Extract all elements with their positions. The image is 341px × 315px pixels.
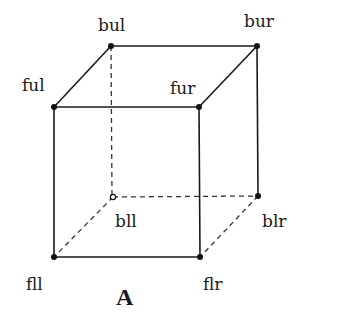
vertex-bur: [254, 43, 260, 49]
edge-fur-flr: [199, 107, 200, 257]
label-bur: bur: [244, 11, 275, 31]
label-fur: fur: [170, 78, 196, 98]
figure-caption: A: [116, 284, 134, 310]
cube-svg: bul bur ful fur bll blr fll flr A: [0, 0, 341, 315]
label-bul: bul: [98, 15, 125, 35]
edge-bll-blr: [113, 196, 258, 197]
vertex-flr: [197, 254, 203, 260]
vertex-fll: [51, 254, 57, 260]
label-bll: bll: [115, 211, 137, 231]
edge-ful-bul: [54, 46, 111, 107]
edge-bur-blr: [257, 46, 258, 196]
edge-bur-fur: [199, 46, 257, 107]
edge-bll-fll: [54, 197, 113, 257]
label-fll: fll: [26, 274, 43, 294]
label-blr: blr: [262, 211, 287, 231]
edge-bul-bll: [111, 46, 112, 197]
vertex-bul: [108, 43, 114, 49]
vertex-ful: [51, 104, 57, 110]
label-flr: flr: [203, 274, 223, 294]
vertex-blr: [255, 193, 261, 199]
vertex-fur: [196, 104, 202, 110]
label-ful: ful: [22, 75, 45, 95]
edge-blr-flr: [200, 196, 258, 257]
cube-diagram: bul bur ful fur bll blr fll flr A: [0, 0, 341, 315]
vertex-bll: [110, 194, 115, 199]
